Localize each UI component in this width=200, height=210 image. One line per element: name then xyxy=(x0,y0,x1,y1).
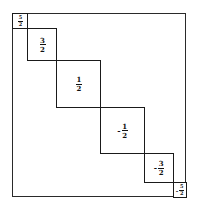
fraction-label: - 1 2 xyxy=(117,123,127,139)
sign: - xyxy=(117,126,120,136)
denominator: 2 xyxy=(180,191,183,196)
numerator: 5 xyxy=(180,184,183,189)
fraction-label: - 5 2 xyxy=(176,184,185,196)
numerator: 1 xyxy=(122,123,127,130)
denominator: 2 xyxy=(77,85,82,92)
numerator: 3 xyxy=(40,37,45,44)
denominator: 2 xyxy=(40,46,45,53)
block-3-2: 3 2 xyxy=(27,28,57,61)
fraction-label: 3 2 xyxy=(39,37,46,53)
numerator: 5 xyxy=(19,15,22,20)
fraction-label: 5 2 xyxy=(17,15,23,27)
block-minus-3-2: - 3 2 xyxy=(144,153,174,183)
block-minus-1-2: - 1 2 xyxy=(100,107,145,154)
denominator: 2 xyxy=(159,169,164,176)
denominator: 2 xyxy=(19,22,22,27)
fraction-label: - 3 2 xyxy=(154,160,164,176)
block-1-2: 1 2 xyxy=(56,60,101,108)
sign: - xyxy=(176,187,179,194)
block-minus-5-2: - 5 2 xyxy=(173,182,187,198)
numerator: 3 xyxy=(159,160,164,167)
numerator: 1 xyxy=(77,76,82,83)
fraction-label: 1 2 xyxy=(75,76,82,92)
sign: - xyxy=(154,163,157,173)
denominator: 2 xyxy=(122,132,127,139)
block-5-2: 5 2 xyxy=(12,13,28,29)
